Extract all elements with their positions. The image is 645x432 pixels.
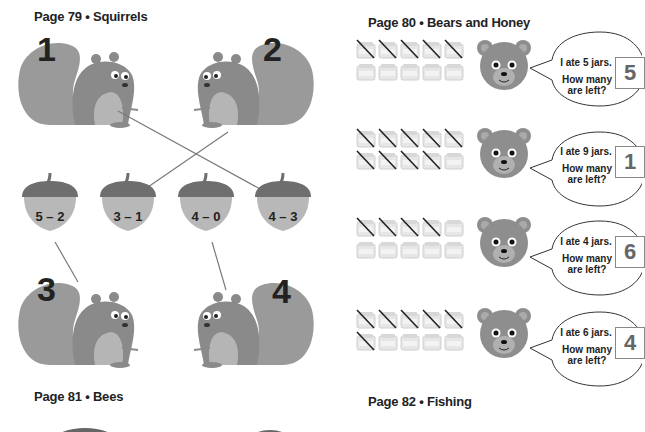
bear-question-1: How many are left? bbox=[562, 74, 612, 96]
squirrel-number-3: 3 bbox=[37, 270, 56, 309]
bear-statement-1: I ate 5 jars. bbox=[556, 57, 616, 68]
acorn-label-4: 4 – 3 bbox=[253, 209, 313, 224]
acorn-label-3: 4 – 0 bbox=[176, 209, 236, 224]
squirrel-number-2: 2 bbox=[263, 30, 282, 69]
answer-box-1[interactable]: 5 bbox=[615, 57, 645, 89]
squirrel-4 bbox=[194, 283, 314, 368]
page-82-heading: Page 82 • Fishing bbox=[368, 394, 472, 409]
acorn-label-2: 3 – 1 bbox=[98, 209, 158, 224]
bear-statement-3: I ate 4 jars. bbox=[556, 236, 616, 247]
squirrel-2 bbox=[194, 43, 314, 128]
page-80-heading: Page 80 • Bears and Honey bbox=[368, 15, 530, 30]
jar-grids bbox=[357, 40, 463, 350]
bear-question-4: How many are left? bbox=[562, 344, 612, 366]
acorn-label-1: 5 – 2 bbox=[20, 209, 80, 224]
bear-question-2: How many are left? bbox=[562, 163, 612, 185]
bear-statement-4: I ate 6 jars. bbox=[556, 327, 616, 338]
answer-box-4[interactable]: 4 bbox=[615, 327, 645, 359]
bear-statement-2: I ate 9 jars. bbox=[556, 146, 616, 157]
squirrel-number-4: 4 bbox=[272, 272, 291, 311]
page-81-heading: Page 81 • Bees bbox=[34, 389, 123, 404]
answer-box-2[interactable]: 1 bbox=[615, 146, 645, 178]
squirrel-number-1: 1 bbox=[37, 30, 56, 69]
bear-question-3: How many are left? bbox=[562, 253, 612, 275]
answer-box-3[interactable]: 6 bbox=[615, 236, 645, 268]
